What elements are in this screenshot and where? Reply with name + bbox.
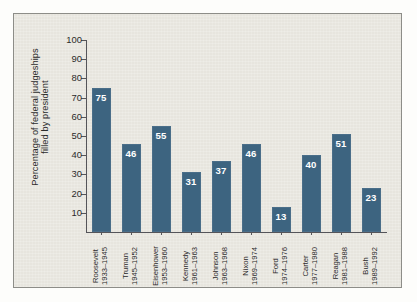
x-axis-label-term: 1981–1988 xyxy=(340,234,349,298)
x-axis-label-term: 1953–1960 xyxy=(160,234,169,298)
figure: Percentage of federal judgeships filled … xyxy=(0,0,417,302)
x-axis-label-name: Kennedy xyxy=(181,234,190,298)
x-axis-label-name: Ford xyxy=(271,234,280,298)
y-axis-tick-label: 100 xyxy=(66,34,82,45)
bar[interactable]: 37 xyxy=(212,161,231,232)
x-axis-label-name: Carter xyxy=(301,234,310,298)
bar-value-label: 46 xyxy=(242,148,261,159)
y-axis-title-line1: Percentage of federal judgeships xyxy=(30,48,40,186)
x-axis-label-term: 1961–1963 xyxy=(190,234,199,298)
bar-value-label: 40 xyxy=(302,159,321,170)
bar[interactable]: 46 xyxy=(242,144,261,232)
bar-value-label: 31 xyxy=(182,176,201,187)
x-axis-label-name: Truman xyxy=(121,234,130,298)
x-axis-label: Reagan1981–1988 xyxy=(331,234,351,298)
chart-panel: Percentage of federal judgeships filled … xyxy=(13,13,402,288)
bar[interactable]: 31 xyxy=(182,172,201,232)
x-axis-label-name: Johnson xyxy=(211,234,220,298)
x-axis-label: Johnson1963–1968 xyxy=(211,234,231,298)
bar[interactable]: 75 xyxy=(92,88,111,232)
x-axis-label-term: 1974–1976 xyxy=(280,234,289,298)
y-axis-tick-label: 20 xyxy=(72,188,82,199)
x-axis-label-term: 1945–1952 xyxy=(130,234,139,298)
bar-value-label: 75 xyxy=(92,92,111,103)
bar[interactable]: 23 xyxy=(362,188,381,232)
x-axis-label: Bush1989–1992 xyxy=(361,234,381,298)
bar-value-label: 46 xyxy=(122,148,141,159)
x-axis-label: Ford1974–1976 xyxy=(271,234,291,298)
y-axis-tick-label: 60 xyxy=(72,111,82,122)
x-axis-label-name: Bush xyxy=(361,234,370,298)
y-axis-tick-label: 30 xyxy=(72,168,82,179)
x-axis-label: Kennedy1961–1963 xyxy=(181,234,201,298)
y-axis-tick-label: 80 xyxy=(72,72,82,83)
bar[interactable]: 55 xyxy=(152,126,171,232)
x-axis-label-term: 1963–1968 xyxy=(220,234,229,298)
x-axis-label-name: Nixon xyxy=(241,234,250,298)
x-axis-label-name: Reagan xyxy=(331,234,340,298)
bar[interactable]: 46 xyxy=(122,144,141,232)
x-axis-label: Roosevelt1933–1945 xyxy=(91,234,111,298)
bar[interactable]: 40 xyxy=(302,155,321,232)
bar-value-label: 51 xyxy=(332,138,351,149)
bar-value-label: 13 xyxy=(272,211,291,222)
x-axis-label-name: Eisenhower xyxy=(151,234,160,298)
x-axis-labels: Roosevelt1933–1945Truman1945–1952Eisenho… xyxy=(86,234,386,302)
x-axis-label: Eisenhower1953–1960 xyxy=(151,234,171,298)
bar-value-label: 55 xyxy=(152,130,171,141)
bar-value-label: 37 xyxy=(212,165,231,176)
y-axis-tick-label: 10 xyxy=(72,207,82,218)
bar-value-label: 23 xyxy=(362,192,381,203)
x-axis-label: Carter1977–1980 xyxy=(301,234,321,298)
x-axis-label-name: Roosevelt xyxy=(91,234,100,298)
y-axis-tick-label: 50 xyxy=(72,130,82,141)
bar[interactable]: 13 xyxy=(272,207,291,232)
x-axis-label: Nixon1969–1974 xyxy=(241,234,261,298)
y-axis-title-line2: filled by president xyxy=(40,48,51,186)
x-axis-label-term: 1989–1992 xyxy=(370,234,379,298)
x-axis-label: Truman1945–1952 xyxy=(121,234,141,298)
bar[interactable]: 51 xyxy=(332,134,351,232)
x-axis-label-term: 1933–1945 xyxy=(100,234,109,298)
y-axis-tick-label: 40 xyxy=(72,149,82,160)
y-axis-line xyxy=(86,40,87,233)
y-axis-tick-label: 90 xyxy=(72,53,82,64)
y-axis-tick-label: 70 xyxy=(72,92,82,103)
plot-area: 100908070605040302010 754655313746134051… xyxy=(86,40,386,232)
y-axis-title: Percentage of federal judgeships filled … xyxy=(26,32,54,202)
x-axis-label-term: 1969–1974 xyxy=(250,234,259,298)
x-axis-label-term: 1977–1980 xyxy=(310,234,319,298)
